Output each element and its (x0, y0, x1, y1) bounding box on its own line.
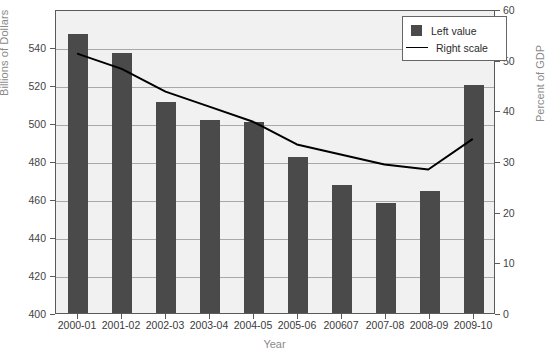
y-axis-right-tick-label: 40 (503, 106, 543, 117)
y-axis-right-tick (495, 314, 500, 315)
y-axis-left-tick-label: 460 (0, 195, 46, 206)
x-axis-tick-label: 2002-03 (141, 320, 189, 331)
y-axis-left-tick (50, 48, 55, 49)
y-axis-left-tick-label: 500 (0, 119, 46, 130)
y-axis-left-tick-label: 440 (0, 233, 46, 244)
y-axis-left-tick (50, 314, 55, 315)
y-axis-right-tick (495, 263, 500, 264)
y-axis-right-tick (495, 111, 500, 112)
y-axis-left-tick (50, 238, 55, 239)
x-axis-tick-label: 2008-09 (405, 320, 453, 331)
y-axis-left-tick (50, 200, 55, 201)
y-axis-right-tick-label: 10 (503, 258, 543, 269)
line-swatch-icon (406, 47, 428, 48)
chart-container: Billions of Dollars Percent of GDP Year … (0, 0, 549, 358)
y-axis-left-tick-label: 540 (0, 43, 46, 54)
legend-label: Right scale (436, 42, 488, 54)
x-axis-tick-label: 200607 (317, 320, 365, 331)
y-axis-right-tick-label: 50 (503, 56, 543, 67)
x-axis-tick-label: 2000-01 (53, 320, 101, 331)
y-axis-left-tick (50, 276, 55, 277)
y-axis-left-tick (50, 124, 55, 125)
x-axis-tick-label: 2004-05 (229, 320, 277, 331)
y-axis-left-tick-label: 520 (0, 81, 46, 92)
y-axis-left-tick-label: 420 (0, 271, 46, 282)
y-axis-left-tick-label: 400 (0, 309, 46, 320)
y-axis-right-tick (495, 162, 500, 163)
x-axis-tick-label: 2003-04 (185, 320, 233, 331)
legend: Left value Right scale (402, 16, 507, 61)
right-scale-polyline (78, 54, 472, 170)
legend-item-right-scale: Right scale (403, 39, 506, 56)
x-axis-tick-label: 2009-10 (449, 320, 497, 331)
legend-label: Left value (431, 25, 477, 37)
x-axis-tick-label: 2007-08 (361, 320, 409, 331)
x-axis-title: Year (0, 338, 549, 350)
y-axis-right-tick (495, 213, 500, 214)
y-axis-right-tick-label: 20 (503, 208, 543, 219)
x-axis-tick-label: 2001-02 (97, 320, 145, 331)
y-axis-right-tick-label: 30 (503, 157, 543, 168)
y-axis-right-tick-label: 60 (503, 5, 543, 16)
bar-swatch-icon (411, 25, 422, 36)
y-axis-right-tick (495, 10, 500, 11)
legend-item-left-value: Left value (403, 22, 506, 39)
x-axis-tick-label: 2005-06 (273, 320, 321, 331)
y-axis-left-tick-label: 480 (0, 157, 46, 168)
y-axis-right-tick-label: 0 (503, 309, 543, 320)
y-axis-left-tick (50, 86, 55, 87)
y-axis-left-tick (50, 162, 55, 163)
